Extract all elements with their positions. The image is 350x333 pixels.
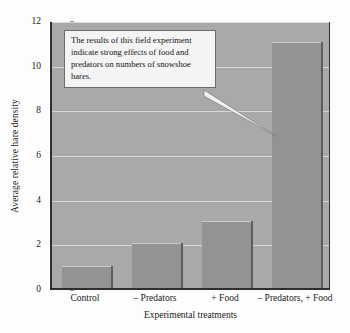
bar	[202, 221, 253, 288]
y-axis-tick-labels: 024681012	[24, 22, 46, 290]
gridline	[52, 22, 329, 23]
bar	[132, 243, 183, 288]
x-axis-tick-label: + Food	[211, 293, 238, 303]
x-axis-title-text: Experimental treatments	[144, 310, 237, 320]
y-axis-tick-label: 0	[36, 285, 41, 295]
y-axis-tick-label: 12	[32, 17, 42, 27]
x-axis-tick-label: Control	[70, 293, 99, 303]
y-axis-title: Average relative hare density	[6, 22, 24, 290]
bar	[272, 42, 323, 288]
callout-text: The results of this field experiment ind…	[71, 35, 192, 81]
plot-area: The results of this field experiment ind…	[50, 22, 330, 290]
plot-inner: The results of this field experiment ind…	[52, 22, 329, 288]
x-axis-title: Experimental treatments	[50, 310, 331, 320]
y-axis-tick-label: 2	[36, 241, 41, 251]
x-axis-tick-label: – Predators, + Food	[257, 293, 332, 303]
bar-chart-figure: Average relative hare density 024681012 …	[0, 0, 350, 333]
x-axis-tick-label: – Predators	[133, 293, 176, 303]
y-axis-tick-label: 4	[36, 196, 41, 206]
y-axis-title-text: Average relative hare density	[10, 99, 20, 213]
y-axis-tick-label: 8	[36, 107, 41, 117]
y-axis-tick-label: 6	[36, 151, 41, 161]
bar	[62, 266, 113, 288]
callout-annotation: The results of this field experiment ind…	[64, 30, 216, 88]
y-axis-tick-label: 10	[32, 62, 42, 72]
x-axis-tick-labels: Control– Predators+ Food– Predators, + F…	[50, 293, 331, 307]
